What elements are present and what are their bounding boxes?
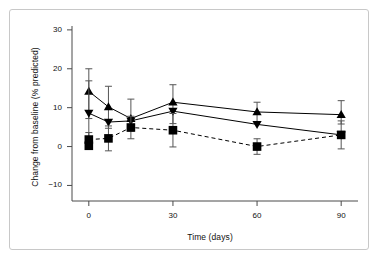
y-tick-label: 20	[38, 64, 62, 73]
marker-triangle-up	[168, 98, 177, 106]
series-line	[89, 91, 341, 118]
marker-triangle-up	[104, 102, 113, 110]
marker-square	[253, 142, 262, 151]
marker-square	[85, 141, 94, 150]
marker-triangle-down	[84, 110, 93, 118]
y-tick-label: 30	[38, 25, 62, 34]
series-square-series-baseline-extra	[85, 141, 94, 150]
series-square-series	[85, 114, 346, 155]
marker-square	[337, 131, 346, 140]
y-tick-label: 0	[38, 142, 62, 151]
marker-square	[104, 134, 113, 143]
marker-square	[127, 123, 136, 132]
x-axis-title: Time (days)	[120, 232, 300, 242]
chart-canvas	[0, 0, 380, 261]
x-tick-label: 0	[77, 211, 101, 220]
y-tick-label: −10	[38, 180, 62, 189]
marker-square	[169, 126, 178, 135]
y-tick-label: 10	[38, 103, 62, 112]
x-tick-label: 90	[329, 211, 353, 220]
x-tick-label: 30	[161, 211, 185, 220]
x-tick-label: 60	[245, 211, 269, 220]
